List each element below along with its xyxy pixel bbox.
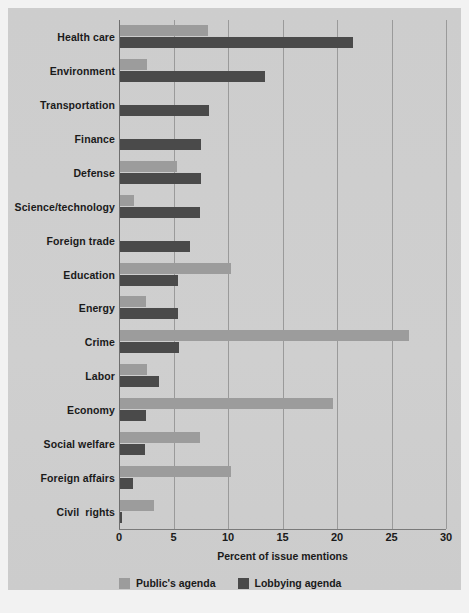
bar bbox=[120, 37, 353, 48]
chart-root: Health careEnvironmentTransportationFina… bbox=[0, 0, 469, 613]
bar bbox=[120, 466, 231, 477]
x-tick-label: 15 bbox=[276, 531, 288, 543]
x-axis-tick-labels: 051015202530 bbox=[119, 531, 446, 549]
legend-label: Lobbying agenda bbox=[255, 577, 342, 589]
x-tick-label: 30 bbox=[440, 531, 452, 543]
bar-group bbox=[119, 393, 446, 427]
bar bbox=[120, 139, 201, 150]
bar bbox=[120, 71, 265, 82]
legend-label: Public's agenda bbox=[136, 577, 216, 589]
bar-group bbox=[119, 224, 446, 258]
bar bbox=[120, 308, 178, 319]
bar-group bbox=[119, 325, 446, 359]
bar bbox=[120, 478, 133, 489]
x-tick-label: 0 bbox=[116, 531, 122, 543]
bar bbox=[120, 330, 409, 341]
category-label: Economy bbox=[11, 404, 115, 416]
bar-group bbox=[119, 495, 446, 529]
bar bbox=[120, 410, 146, 421]
category-label: Science/technology bbox=[11, 201, 115, 213]
bar-group bbox=[119, 88, 446, 122]
x-axis-title: Percent of issue mentions bbox=[119, 550, 446, 562]
bar-group bbox=[119, 461, 446, 495]
category-label: Finance bbox=[11, 133, 115, 145]
bar bbox=[120, 432, 200, 443]
bar bbox=[120, 342, 179, 353]
x-tick-label: 20 bbox=[331, 531, 343, 543]
bar bbox=[120, 364, 147, 375]
category-label: Defense bbox=[11, 167, 115, 179]
bar bbox=[120, 296, 146, 307]
gridline bbox=[446, 20, 447, 529]
category-label: Environment bbox=[11, 65, 115, 77]
bar-group bbox=[119, 54, 446, 88]
chart-panel: Health careEnvironmentTransportationFina… bbox=[8, 8, 461, 590]
legend-item: Lobbying agenda bbox=[238, 577, 342, 589]
category-label: Transportation bbox=[11, 99, 115, 111]
bar bbox=[120, 241, 190, 252]
bar bbox=[120, 25, 208, 36]
category-label: Education bbox=[11, 269, 115, 281]
bar bbox=[120, 263, 231, 274]
plot-area bbox=[119, 20, 446, 529]
legend-swatch-icon bbox=[238, 578, 249, 589]
bar bbox=[120, 500, 154, 511]
category-label: Civil rights bbox=[11, 506, 115, 518]
bar bbox=[120, 59, 147, 70]
bar-group bbox=[119, 427, 446, 461]
x-tick-label: 5 bbox=[170, 531, 176, 543]
chart-legend: Public's agendaLobbying agenda bbox=[119, 574, 459, 592]
bar bbox=[120, 173, 201, 184]
legend-item: Public's agenda bbox=[119, 577, 216, 589]
category-label: Foreign trade bbox=[11, 235, 115, 247]
bar-group bbox=[119, 258, 446, 292]
category-label: Social welfare bbox=[11, 438, 115, 450]
bar bbox=[120, 105, 209, 116]
bar-group bbox=[119, 291, 446, 325]
bar-group bbox=[119, 359, 446, 393]
bar bbox=[120, 444, 145, 455]
legend-swatch-icon bbox=[119, 578, 130, 589]
bar bbox=[120, 398, 333, 409]
x-tick-label: 10 bbox=[222, 531, 234, 543]
bar-group bbox=[119, 20, 446, 54]
category-label: Health care bbox=[11, 31, 115, 43]
bar-group bbox=[119, 190, 446, 224]
bar bbox=[120, 512, 122, 523]
bar bbox=[120, 275, 178, 286]
category-label: Labor bbox=[11, 370, 115, 382]
bar-group bbox=[119, 156, 446, 190]
bar bbox=[120, 376, 159, 387]
category-label: Foreign affairs bbox=[11, 472, 115, 484]
category-label: Energy bbox=[11, 302, 115, 314]
x-axis-line bbox=[119, 529, 446, 530]
bar bbox=[120, 195, 134, 206]
y-axis-category-labels: Health careEnvironmentTransportationFina… bbox=[8, 20, 115, 529]
bar bbox=[120, 207, 200, 218]
bar-group bbox=[119, 122, 446, 156]
category-label: Crime bbox=[11, 336, 115, 348]
bar bbox=[120, 161, 177, 172]
x-tick-label: 25 bbox=[385, 531, 397, 543]
